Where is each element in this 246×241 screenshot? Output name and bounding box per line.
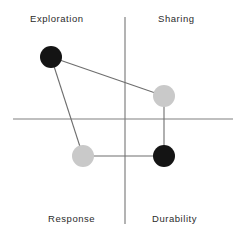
quadrant-label-response: Response: [48, 214, 95, 224]
connector-line-p3-p1: [51, 57, 83, 156]
connector-line-p1-p2: [51, 57, 164, 96]
quadrant-label-exploration: Exploration: [30, 14, 84, 24]
data-point-exploration[interactable]: [40, 46, 62, 68]
connector-lines-group: [51, 57, 164, 156]
data-point-durability[interactable]: [153, 145, 175, 167]
quadrant-label-durability: Durability: [152, 214, 197, 224]
data-point-response[interactable]: [72, 145, 94, 167]
data-points-group: [40, 46, 175, 167]
quadrant-diagram: Exploration Sharing Response Durability: [0, 0, 246, 241]
quadrant-chart-canvas: [0, 0, 246, 241]
data-point-sharing[interactable]: [153, 85, 175, 107]
quadrant-label-sharing: Sharing: [158, 14, 195, 24]
